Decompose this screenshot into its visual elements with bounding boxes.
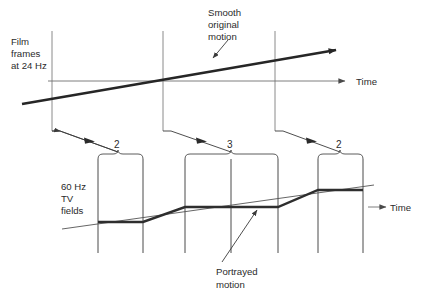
film-frames-label-line1: Film bbox=[11, 36, 29, 47]
film-frames-label-line3: at 24 Hz bbox=[11, 60, 47, 71]
tv-fields-label-line3: fields bbox=[61, 205, 84, 216]
smooth-original-label-line1: Smooth bbox=[208, 7, 241, 18]
cadence-bracket-3 bbox=[318, 150, 363, 159]
diagram-canvas: Film frames at 24 Hz Smooth original mot… bbox=[0, 0, 425, 296]
cadence-brackets bbox=[98, 150, 363, 159]
smooth-original-label-line2: original bbox=[208, 19, 239, 30]
cadence-count-1: 2 bbox=[114, 139, 120, 150]
tv-fields-label-line2: TV bbox=[61, 193, 74, 204]
time-axis-bottom-label: Time bbox=[390, 202, 411, 213]
cadence-count-3: 2 bbox=[336, 139, 342, 150]
pulldown-diagram: Film frames at 24 Hz Smooth original mot… bbox=[0, 0, 425, 296]
time-axis-top-label: Time bbox=[356, 76, 377, 87]
portrayed-motion-pointer bbox=[222, 210, 257, 262]
frame-to-field-connectors bbox=[52, 131, 340, 154]
portrayed-motion-label-line2: motion bbox=[216, 279, 245, 290]
portrayed-motion-label-line1: Portrayed bbox=[216, 266, 258, 277]
smooth-original-label-line3: motion bbox=[208, 31, 237, 42]
cadence-count-2: 3 bbox=[227, 139, 233, 150]
cadence-bracket-2 bbox=[185, 150, 278, 159]
film-frames-label-line2: frames bbox=[11, 48, 41, 59]
tv-fields-label-line1: 60 Hz bbox=[61, 181, 86, 192]
tv-fields-panel bbox=[62, 159, 386, 253]
smooth-motion-pointer bbox=[213, 40, 228, 58]
film-frames-panel bbox=[22, 31, 345, 131]
smooth-original-motion-line bbox=[22, 50, 336, 104]
pointer-leaders bbox=[213, 40, 257, 262]
text-labels: Film frames at 24 Hz Smooth original mot… bbox=[11, 7, 411, 290]
